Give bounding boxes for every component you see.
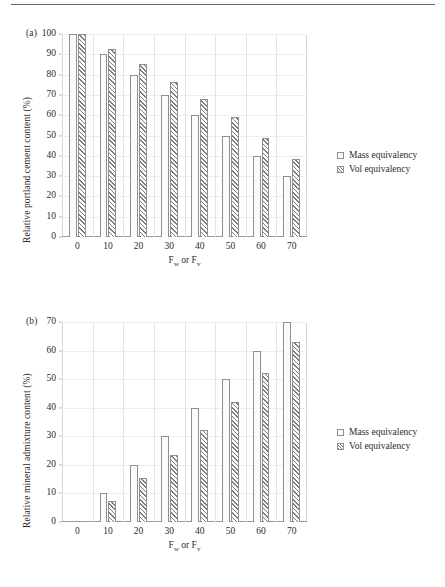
legend-label-mass-a: Mass equivalency: [349, 150, 417, 160]
x-axis-label-a: Fw or Fv: [169, 255, 201, 268]
bar-mass-10[interactable]: [100, 493, 108, 522]
y-tick-label: 0: [51, 232, 56, 242]
bar-vol-10[interactable]: [108, 49, 116, 237]
bar-mass-10[interactable]: [100, 54, 108, 237]
category-separator: [93, 322, 94, 522]
y-tick-mark: [59, 322, 62, 323]
y-tick-label: 30: [47, 171, 57, 181]
bar-vol-20[interactable]: [139, 478, 147, 522]
bar-vol-20[interactable]: [139, 64, 147, 237]
x-tick-label: 20: [134, 242, 144, 252]
y-tick-mark: [59, 155, 62, 156]
y-tick-label: 50: [47, 374, 57, 384]
bar-vol-0[interactable]: [78, 34, 86, 237]
category-separator: [276, 34, 277, 237]
x-tick-label: 40: [195, 527, 205, 537]
y-tick-mark: [59, 216, 62, 217]
y-tick-mark: [59, 54, 62, 55]
bar-mass-70[interactable]: [283, 322, 291, 522]
bar-vol-30[interactable]: [170, 82, 178, 237]
panel-label-a: (a): [26, 28, 37, 38]
category-separator: [185, 322, 186, 522]
legend-item-mass-b[interactable]: Mass equivalency: [337, 425, 417, 439]
legend-item-vol-b[interactable]: Vol equivalency: [337, 439, 417, 453]
x-tick-label: 70: [287, 527, 297, 537]
bar-vol-40[interactable]: [200, 99, 208, 237]
bar-vol-40[interactable]: [200, 430, 208, 522]
y-tick-label: 60: [47, 110, 57, 120]
y-tick-label: 10: [47, 212, 57, 222]
bar-vol-60[interactable]: [262, 373, 270, 522]
y-tick-label: 70: [47, 90, 57, 100]
x-tick-label: 50: [226, 527, 236, 537]
legend-item-vol-a[interactable]: Vol equivalency: [337, 162, 417, 176]
bar-vol-30[interactable]: [170, 455, 178, 522]
x-tick-label: 10: [103, 242, 113, 252]
y-tick-mark: [59, 135, 62, 136]
x-tick-label: 0: [75, 242, 80, 252]
bar-mass-0[interactable]: [69, 34, 77, 237]
bar-mass-20[interactable]: [130, 465, 138, 522]
y-tick-label: 90: [47, 50, 57, 60]
legend-swatch-vol-icon: [337, 166, 344, 173]
y-axis-label-b: Relative mineral admixture content (%): [22, 373, 32, 528]
bar-mass-20[interactable]: [130, 75, 138, 237]
x-axis-label-b-sub2: v: [197, 545, 201, 553]
bar-vol-70[interactable]: [292, 342, 300, 522]
category-separator: [215, 34, 216, 237]
y-tick-label: 70: [47, 317, 57, 327]
bar-vol-50[interactable]: [231, 117, 239, 237]
plot-right-border-b: [306, 322, 307, 522]
x-tick-label: 60: [256, 527, 266, 537]
x-tick-label: 50: [226, 242, 236, 252]
category-separator: [154, 322, 155, 522]
x-tick-label: 10: [103, 527, 113, 537]
y-tick-label: 40: [47, 151, 57, 161]
bar-mass-70[interactable]: [283, 176, 291, 237]
category-separator: [246, 34, 247, 237]
category-separator: [154, 34, 155, 237]
bar-mass-40[interactable]: [191, 408, 199, 522]
legend-swatch-vol-icon: [337, 443, 344, 450]
plot-area-b: Fw or Fv 010203040506070010203040506070: [62, 322, 307, 522]
legend-item-mass-a[interactable]: Mass equivalency: [337, 148, 417, 162]
y-axis-label-a: Relative portland cement content (%): [22, 97, 32, 243]
x-tick-label: 0: [75, 527, 80, 537]
y-tick-label: 10: [47, 489, 57, 499]
bar-mass-50[interactable]: [222, 379, 230, 522]
y-tick-label: 80: [47, 70, 57, 80]
y-tick-mark: [59, 94, 62, 95]
bar-vol-70[interactable]: [292, 159, 300, 237]
category-separator: [185, 34, 186, 237]
legend-a: Mass equivalency Vol equivalency: [337, 148, 417, 176]
bar-mass-40[interactable]: [191, 115, 199, 237]
bar-mass-50[interactable]: [222, 136, 230, 238]
category-separator: [123, 322, 124, 522]
bar-vol-50[interactable]: [231, 402, 239, 522]
category-separator: [123, 34, 124, 237]
plot-area-a: Fw or Fv 0102030405060708090100010203040…: [62, 34, 307, 237]
y-tick-mark: [59, 350, 62, 351]
y-tick-label: 60: [47, 346, 57, 356]
bar-mass-30[interactable]: [161, 95, 169, 237]
y-tick-mark: [59, 196, 62, 197]
legend-label-vol-a: Vol equivalency: [349, 164, 410, 174]
y-tick-mark: [59, 407, 62, 408]
bar-mass-60[interactable]: [253, 351, 261, 522]
legend-b: Mass equivalency Vol equivalency: [337, 425, 417, 453]
x-tick-label: 20: [134, 527, 144, 537]
x-axis-label-a-sub2: v: [197, 260, 201, 268]
x-tick-label: 70: [287, 242, 297, 252]
x-axis-label-b: Fw or Fv: [169, 540, 201, 553]
bar-vol-10[interactable]: [108, 501, 116, 522]
y-tick-label: 30: [47, 432, 57, 442]
legend-swatch-mass-icon: [337, 429, 344, 436]
plot-left-border-b: [62, 322, 63, 522]
legend-swatch-mass-icon: [337, 152, 344, 159]
bar-mass-60[interactable]: [253, 156, 261, 237]
y-tick-mark: [59, 379, 62, 380]
bar-mass-30[interactable]: [161, 436, 169, 522]
x-tick-label: 40: [195, 242, 205, 252]
bar-vol-60[interactable]: [262, 138, 270, 237]
legend-label-mass-b: Mass equivalency: [349, 427, 417, 437]
